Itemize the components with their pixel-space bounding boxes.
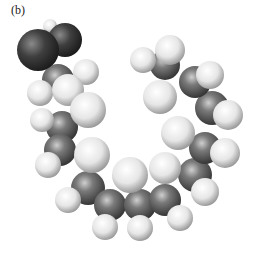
hydrogen-atom [35, 152, 61, 178]
hydrogen-atom [213, 100, 243, 130]
hydrogen-atom [149, 152, 181, 184]
hydrogen-atom [30, 108, 54, 132]
hydrogen-atom [55, 187, 81, 213]
hydrogen-atom [130, 47, 156, 73]
hydrogen-atom [210, 138, 240, 168]
hydrogen-atom [74, 137, 110, 173]
molecule-model [0, 0, 257, 256]
atoms-group [17, 19, 243, 241]
hydrogen-atom [143, 80, 177, 114]
hydrogen-atom [161, 116, 195, 150]
hydrogen-atom [167, 205, 193, 231]
oxygen-atom [17, 29, 59, 71]
hydrogen-atom [155, 35, 185, 65]
hydrogen-atom [92, 214, 118, 240]
hydrogen-atom [27, 80, 53, 106]
hydrogen-atom [191, 178, 219, 206]
hydrogen-atom [127, 215, 153, 241]
hydrogen-atom [70, 92, 106, 128]
hydrogen-atom [112, 157, 148, 193]
hydrogen-atom [196, 61, 224, 89]
